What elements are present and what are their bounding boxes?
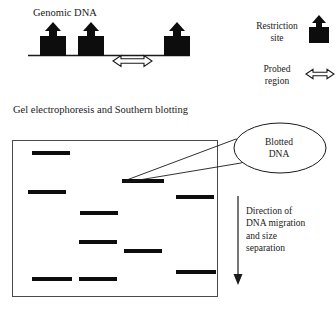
legend-restriction-site-label: Restriction site bbox=[248, 21, 306, 45]
gel-band bbox=[32, 277, 72, 281]
gel-section-title: Gel electrophoresis and Southern blottin… bbox=[13, 104, 188, 116]
gel-band bbox=[176, 270, 216, 274]
legend-restriction-line2: site bbox=[248, 33, 306, 45]
restriction-site-2 bbox=[78, 22, 104, 56]
gel-band bbox=[28, 190, 66, 194]
blotted-dna-label: Blotted DNA bbox=[250, 137, 308, 161]
southern-blotting-figure: Genomic DNA bbox=[0, 0, 335, 311]
blotted-dna-line2: DNA bbox=[250, 149, 308, 161]
migration-line1: Direction of bbox=[246, 205, 334, 217]
migration-direction-arrow bbox=[234, 196, 243, 285]
probed-region-arrow bbox=[113, 56, 152, 67]
migration-line3: and size bbox=[246, 230, 334, 242]
restriction-site-3 bbox=[164, 22, 190, 56]
migration-line4: separation bbox=[246, 242, 334, 254]
legend-probed-line2: region bbox=[248, 76, 306, 88]
legend-probed-line1: Probed bbox=[248, 64, 306, 76]
legend-double-arrow-icon bbox=[306, 69, 334, 79]
migration-direction-label: Direction of DNA migration and size sepa… bbox=[246, 205, 334, 254]
gel-band bbox=[79, 240, 117, 244]
legend-restriction-site-icon bbox=[309, 15, 329, 43]
migration-line2: DNA migration bbox=[246, 217, 334, 229]
gel-band bbox=[176, 195, 214, 199]
legend-probed-region-label: Probed region bbox=[248, 64, 306, 88]
gel-band bbox=[79, 277, 117, 281]
gel-band bbox=[80, 211, 118, 215]
blotted-dna-line1: Blotted bbox=[250, 137, 308, 149]
gel-band bbox=[32, 151, 70, 155]
restriction-site-1 bbox=[40, 22, 66, 56]
legend-restriction-line1: Restriction bbox=[248, 21, 306, 33]
gel-band bbox=[124, 249, 162, 253]
